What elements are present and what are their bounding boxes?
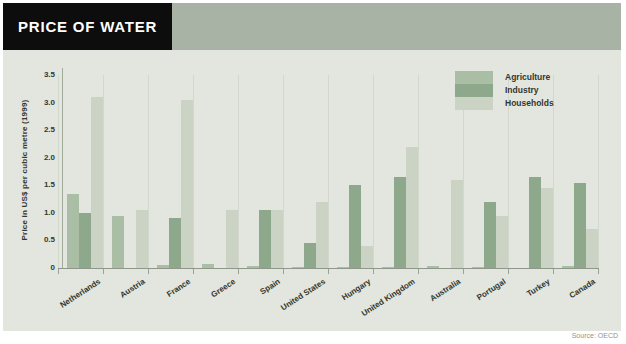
y-axis-line [62,68,63,268]
chart-area: Price in US$ per cubic metre (1999) 3.53… [3,50,621,331]
y-tick-label: 1.5 [23,180,55,190]
bar-households-australia [451,180,463,268]
bar-agriculture-canada [562,266,574,268]
bar-households-netherlands [91,97,103,268]
x-axis-label: France [165,277,192,299]
bar-households-spain [271,210,283,268]
legend-item: Agriculture [455,71,554,84]
bar-households-france [181,100,193,268]
x-axis-label: Austria [119,277,147,300]
source-note: Source: OECD [572,332,618,339]
bar-agriculture-united-kingdom [382,267,394,268]
bar-agriculture-spain [247,266,259,268]
bar-agriculture-portugal [472,267,484,268]
bar-industry-netherlands [79,213,91,268]
bar-agriculture-netherlands [67,194,79,268]
bar-industry-turkey [529,177,541,268]
legend-swatch-industry [455,84,493,97]
legend-label: Agriculture [505,71,550,84]
page-title: PRICE OF WATER [18,18,157,35]
y-tick-label: 2.0 [23,153,55,163]
bar-households-austria [136,210,148,268]
bar-industry-united-states [304,243,316,268]
title-box: PRICE OF WATER [3,3,172,50]
bar-industry-united-kingdom [394,177,406,268]
group-separator [148,75,149,268]
y-tick-label: 3.5 [23,70,55,80]
x-axis-label: Australia [428,277,462,303]
bar-agriculture-australia [427,266,439,268]
legend-swatch-households [455,97,493,110]
y-tick-label: 0.5 [23,235,55,245]
bar-industry-canada [574,183,586,268]
bar-households-united-states [316,202,328,268]
x-axis-line [58,268,599,269]
bar-households-canada [586,229,598,268]
x-axis-label: Netherlands [58,277,102,310]
y-tick-label: 2.5 [23,125,55,135]
bar-agriculture-greece [202,264,214,268]
bar-households-united-kingdom [406,147,418,268]
bar-industry-spain [259,210,271,268]
bar-industry-hungary [349,185,361,268]
bar-agriculture-united-states [292,267,304,268]
group-separator [283,75,284,268]
bar-households-greece [226,210,238,268]
x-axis-label: Turkey [525,277,551,299]
group-separator [598,75,599,268]
x-axis-label: United States [279,277,327,312]
group-separator [238,75,239,268]
group-separator [418,75,419,268]
bar-industry-portugal [484,202,496,268]
group-separator [373,75,374,268]
legend: AgricultureIndustryHouseholds [455,71,554,110]
x-axis-label: Greece [209,277,237,299]
group-separator [328,75,329,268]
bar-agriculture-hungary [337,267,349,268]
y-tick-label: 0 [23,263,55,273]
legend-item: Industry [455,84,554,97]
group-separator [58,75,59,268]
bar-households-portugal [496,216,508,268]
y-tick-label: 3.0 [23,98,55,108]
bar-households-turkey [541,188,553,268]
bar-agriculture-france [157,265,169,268]
x-axis-label: Canada [568,277,597,300]
x-axis-label: Portugal [475,277,507,302]
x-axis-label: Spain [259,277,282,296]
legend-label: Industry [505,84,539,97]
bar-industry-france [169,218,181,268]
x-axis-label: Hungary [340,277,372,302]
bar-households-hungary [361,246,373,268]
legend-swatch-agriculture [455,71,493,84]
y-tick-label: 1.0 [23,208,55,218]
bar-agriculture-austria [112,216,124,268]
group-separator [103,75,104,268]
legend-label: Households [505,97,554,110]
group-separator [193,75,194,268]
y-axis-label: Price in US$ per cubic metre (1999) [20,100,29,241]
legend-item: Households [455,97,554,110]
